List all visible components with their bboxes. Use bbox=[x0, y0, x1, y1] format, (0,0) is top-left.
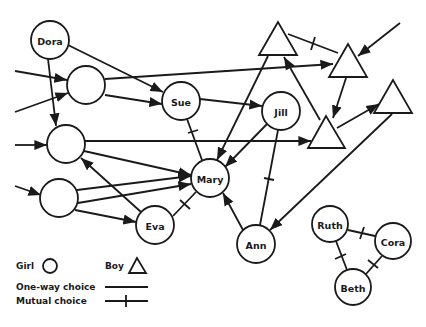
edge-ext-u1-b bbox=[15, 93, 68, 112]
node-label: Beth bbox=[341, 283, 366, 294]
node-unnamed-girl-2 bbox=[47, 125, 85, 163]
node-dora: Dora bbox=[31, 21, 69, 59]
boy-triangle-icon-3 bbox=[374, 80, 412, 113]
boy-triangle-icon-2 bbox=[329, 44, 367, 77]
node-ann: Ann bbox=[237, 225, 275, 263]
legend: Girl Boy One-way choice Mutual choice bbox=[16, 258, 148, 307]
edge-u2-mary bbox=[84, 151, 191, 175]
legend-mutual-label: Mutual choice bbox=[16, 296, 87, 306]
girl-circle-icon bbox=[67, 66, 105, 104]
node-label: Ann bbox=[246, 240, 267, 251]
node-cora: Cora bbox=[375, 223, 411, 259]
boy-triangle-icon-1 bbox=[259, 22, 297, 55]
edge-u1-sue bbox=[105, 95, 162, 104]
edge-ext-u1-a bbox=[15, 71, 67, 80]
node-unnamed-girl-1 bbox=[67, 66, 105, 104]
legend-girl-circle-icon bbox=[43, 259, 57, 273]
node-beth: Beth bbox=[335, 269, 371, 305]
node-unnamed-girl-3 bbox=[40, 179, 78, 217]
node-ruth: Ruth bbox=[312, 206, 348, 242]
node-label: Sue bbox=[171, 97, 191, 108]
node-label: Cora bbox=[381, 237, 406, 248]
node-label: Mary bbox=[197, 174, 225, 185]
edge-jill-ann bbox=[260, 130, 278, 225]
node-jill: Jill bbox=[262, 92, 300, 130]
legend-girl-label: Girl bbox=[16, 261, 34, 271]
edge-u3-mary-a bbox=[77, 176, 191, 190]
mutual-tick-jill-ann bbox=[264, 178, 274, 180]
node-mary: Mary bbox=[191, 159, 229, 197]
node-label: Ruth bbox=[317, 220, 343, 231]
legend-boy-label: Boy bbox=[105, 261, 124, 271]
edge-t2-t4 bbox=[333, 78, 346, 118]
edge-u3-eva bbox=[75, 210, 136, 222]
edge-ext-t2 bbox=[358, 23, 400, 56]
sociogram: Dora Sue Jill Mary Eva Ann bbox=[0, 0, 426, 327]
boy-triangle-icon-4 bbox=[308, 116, 345, 148]
node-sue: Sue bbox=[162, 82, 200, 120]
edge-eva-u2 bbox=[81, 158, 141, 212]
girl-circle-icon bbox=[47, 125, 85, 163]
edge-u3-mary-b bbox=[78, 184, 191, 203]
legend-one-way-label: One-way choice bbox=[16, 282, 95, 292]
edge-u1-t2 bbox=[105, 64, 333, 79]
legend-boy-triangle-icon bbox=[129, 258, 146, 273]
edge-sue-jill bbox=[200, 99, 262, 106]
edge-ann-mary bbox=[223, 193, 243, 230]
edge-ext-u3 bbox=[15, 186, 41, 195]
node-label: Eva bbox=[145, 221, 164, 232]
edge-dora-u2 bbox=[48, 59, 56, 126]
girl-circle-icon bbox=[40, 179, 78, 217]
edge-sue-mary bbox=[187, 119, 202, 160]
node-label: Jill bbox=[273, 107, 287, 118]
nodes: Dora Sue Jill Mary Eva Ann bbox=[31, 21, 412, 305]
node-eva: Eva bbox=[136, 206, 174, 244]
node-label: Dora bbox=[37, 36, 63, 47]
edge-t4-t3 bbox=[337, 104, 379, 128]
mutual-tick-sue-mary bbox=[188, 130, 198, 133]
